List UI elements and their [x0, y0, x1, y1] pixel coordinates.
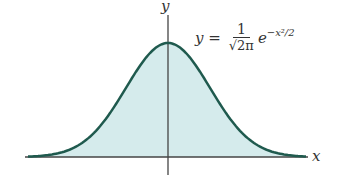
exponent: −x²/2: [267, 27, 295, 38]
exp-base: e: [258, 29, 267, 47]
chart: y x y = 1 √2π e −x²/2: [0, 0, 341, 192]
equation-lhs: y =: [195, 29, 221, 47]
area-under-curve: [28, 43, 306, 157]
x-axis-label: x: [312, 147, 320, 165]
fraction: 1 √2π: [229, 22, 254, 54]
equation: y = 1 √2π e −x²/2: [195, 22, 295, 54]
denominator: √2π: [229, 38, 254, 54]
y-axis-label: y: [161, 0, 169, 15]
numerator: 1: [233, 22, 250, 38]
